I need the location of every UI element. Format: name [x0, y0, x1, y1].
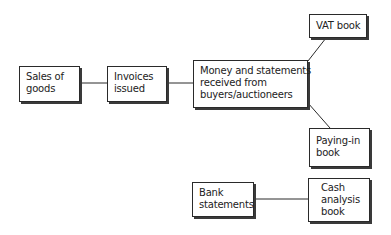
node-label-line: issued — [114, 83, 160, 95]
node-cash-analysis-book: Cash analysis book — [308, 178, 370, 222]
node-money-and-statements: Money and statements received from buyer… — [193, 60, 308, 108]
node-bank-statements: Bank statements — [192, 182, 254, 217]
node-label-line: buyers/auctioneers — [200, 89, 301, 101]
node-label-line: Cash — [321, 182, 363, 194]
node-label-line: book — [316, 147, 363, 159]
node-paying-in-book: Paying-in book — [309, 128, 370, 167]
node-sales-of-goods: Sales of goods — [19, 66, 80, 102]
node-label-line: VAT book — [316, 20, 360, 32]
node-label-line: book — [321, 206, 363, 218]
node-label-line: Bank — [199, 187, 247, 199]
node-label-line: Sales of — [26, 71, 73, 83]
node-vat-book: VAT book — [309, 14, 367, 38]
node-label-line: received from — [200, 77, 301, 89]
node-label-line: goods — [26, 83, 73, 95]
node-label-line: statements — [199, 199, 247, 211]
node-invoices-issued: Invoices issued — [107, 66, 167, 102]
edge-money-vat — [308, 38, 326, 61]
node-label-line: Paying-in — [316, 135, 363, 147]
node-label-line: Invoices — [114, 71, 160, 83]
node-label-line: analysis — [321, 194, 363, 206]
edge-money-payingin — [308, 103, 330, 128]
node-label-line: Money and statements — [200, 65, 301, 77]
